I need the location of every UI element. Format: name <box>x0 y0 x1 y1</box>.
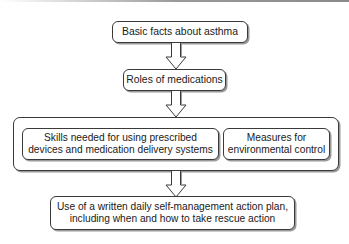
skills-line-1: Skills needed for using prescribed <box>28 132 213 145</box>
action-line-2: including when and how to take rescue ac… <box>57 213 288 226</box>
down-arrow-icon <box>164 91 188 118</box>
basic-facts-label: Basic facts about asthma <box>122 26 238 39</box>
skills-line-2: devices and medication delivery systems <box>28 144 213 157</box>
measures-line-1: Measures for <box>228 132 325 145</box>
roles-medications-box: Roles of medications <box>123 69 226 91</box>
skills-devices-box: Skills needed for using prescribed devic… <box>22 128 219 160</box>
action-plan-box: Use of a written daily self-management a… <box>50 196 295 230</box>
down-arrow-icon <box>164 171 188 198</box>
roles-medications-label: Roles of medications <box>126 74 222 87</box>
top-rule <box>0 0 349 2</box>
environmental-measures-box: Measures for environmental control <box>223 128 330 160</box>
measures-line-2: environmental control <box>228 144 325 157</box>
basic-facts-box: Basic facts about asthma <box>112 21 248 43</box>
down-arrow-icon <box>164 43 188 70</box>
action-line-1: Use of a written daily self-management a… <box>57 201 288 214</box>
